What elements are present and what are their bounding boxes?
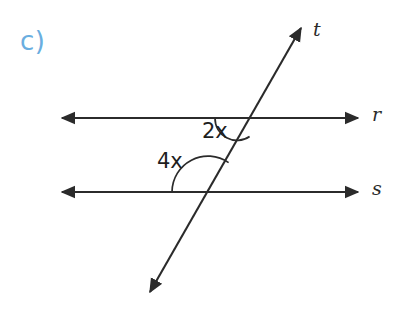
diagram-canvas: c) r s t 2x 4x — [0, 0, 420, 319]
problem-label: c) — [20, 28, 45, 54]
line-t-label: t — [313, 20, 321, 39]
angle-label-2x: 2x — [202, 121, 228, 142]
angle-label-4x: 4x — [157, 151, 183, 172]
line-r-label: r — [372, 105, 381, 124]
line-s-label: s — [372, 179, 382, 198]
geometry-figure — [0, 0, 420, 319]
